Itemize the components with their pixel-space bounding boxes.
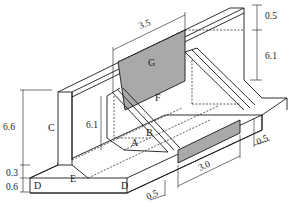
label-g: G bbox=[148, 57, 155, 68]
label-f: F bbox=[155, 92, 161, 103]
dim-wall-height-right: 6.1 bbox=[265, 51, 277, 61]
label-c: C bbox=[48, 122, 55, 133]
isometric-structure-diagram: C D D E A B F G 3.5 0.5 6.1 6.6 6.1 0.3 … bbox=[0, 0, 297, 207]
dim-wall-height-left: 6.6 bbox=[3, 122, 15, 132]
dim-base-thickness: 0.6 bbox=[6, 182, 18, 192]
label-e: E bbox=[70, 173, 76, 184]
label-b: B bbox=[146, 127, 153, 138]
label-d-right: D bbox=[121, 180, 128, 191]
label-d-left: D bbox=[34, 180, 41, 191]
region-f-face bbox=[118, 30, 185, 110]
dim-base-step: 0.3 bbox=[6, 168, 18, 178]
dim-edge-offset-bottom: 0.5 bbox=[145, 188, 160, 202]
dim-top-thickness: 0.5 bbox=[265, 11, 277, 21]
label-a: A bbox=[131, 137, 139, 148]
dim-top-width: 3.5 bbox=[137, 17, 152, 31]
dim-edge-offset-right: 0.5 bbox=[255, 133, 270, 147]
dim-inner-height: 6.1 bbox=[86, 120, 98, 130]
